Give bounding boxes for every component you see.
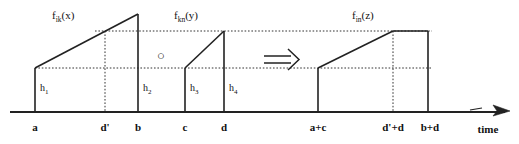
axis-tick-c: c <box>183 121 188 133</box>
axis-tick-d: d <box>221 121 227 133</box>
f-ik-ramp <box>35 14 138 68</box>
label-h4: h4 <box>229 82 238 96</box>
label-h1: h1 <box>40 82 49 96</box>
axis-tick-a: a <box>32 121 38 133</box>
f-kn-ramp <box>185 31 224 68</box>
shape-f-kn <box>185 31 224 112</box>
guide-lines <box>35 31 432 112</box>
diagram-canvas: fik(x) fkn(y) fin(z) ○ h1 h2 h3 h4 a <box>0 0 519 144</box>
label-f-kn: fkn(y) <box>174 9 198 24</box>
axis-arrow-tail-icon <box>470 108 482 110</box>
composition-diagram: fik(x) fkn(y) fin(z) ○ h1 h2 h3 h4 a <box>0 0 519 144</box>
label-h2: h2 <box>143 82 152 96</box>
time-axis <box>10 105 510 116</box>
axis-tick-b: b <box>135 121 141 133</box>
label-f-ik: fik(x) <box>52 9 75 24</box>
implies-arrow-icon <box>264 49 299 70</box>
label-h3: h3 <box>190 82 199 96</box>
axis-arrowhead-icon <box>493 105 510 116</box>
f-in-ramp <box>318 31 393 68</box>
label-f-in: fin(z) <box>352 9 374 24</box>
axis-name-time: time <box>478 123 499 135</box>
axis-tick-dprime-plus-d: d'+d <box>382 121 404 133</box>
axis-tick-a-plus-c: a+c <box>310 121 327 133</box>
composition-operator-icon: ○ <box>157 48 165 63</box>
shape-f-ik <box>35 14 138 112</box>
shape-f-in <box>318 31 428 112</box>
axis-tick-b-plus-d: b+d <box>421 121 440 133</box>
axis-tick-dprime: d' <box>100 121 109 133</box>
